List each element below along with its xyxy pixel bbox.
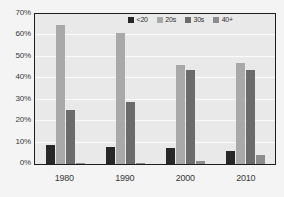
legend-swatch-icon xyxy=(157,17,163,23)
legend-swatch-icon xyxy=(185,17,191,23)
bar xyxy=(246,70,255,164)
bar xyxy=(126,102,135,164)
bar xyxy=(186,70,195,164)
bar xyxy=(226,151,235,164)
bar xyxy=(56,25,65,164)
legend-label: 30s xyxy=(193,16,204,23)
legend-swatch-icon xyxy=(213,17,219,23)
bar xyxy=(176,65,185,164)
bar xyxy=(76,163,85,164)
bar xyxy=(106,147,115,164)
bar-group xyxy=(215,14,275,164)
y-tick-label: 30% xyxy=(16,95,31,103)
bar xyxy=(46,145,55,164)
y-tick-label: 40% xyxy=(16,73,31,81)
y-tick-label: 20% xyxy=(16,116,31,124)
bar xyxy=(256,155,265,164)
legend-item: <20 xyxy=(128,16,148,23)
y-tick-label: 70% xyxy=(16,9,31,17)
legend-item: 20s xyxy=(157,16,176,23)
y-tick-label: 0% xyxy=(20,159,31,167)
bars-layer xyxy=(35,14,275,164)
bar-group xyxy=(95,14,155,164)
bar xyxy=(196,161,205,164)
x-axis: 1980199020002010 xyxy=(34,171,276,185)
x-tick-label: 2010 xyxy=(216,171,277,185)
legend-item: 40+ xyxy=(213,16,233,23)
legend: <2020s30s40+ xyxy=(128,16,233,23)
legend-item: 30s xyxy=(185,16,204,23)
plot-area xyxy=(34,13,276,165)
bar xyxy=(136,163,145,164)
legend-swatch-icon xyxy=(128,17,134,23)
y-tick-label: 60% xyxy=(16,30,31,38)
legend-label: <20 xyxy=(137,16,148,23)
x-tick-label: 1990 xyxy=(95,171,156,185)
bar-group xyxy=(155,14,215,164)
x-tick-label: 1980 xyxy=(34,171,95,185)
bar-group xyxy=(35,14,95,164)
y-tick-label: 50% xyxy=(16,52,31,60)
chart-figure: 0%10%20%30%40%50%60%70% 1980199020002010… xyxy=(0,0,284,197)
x-tick-label: 2000 xyxy=(155,171,216,185)
bar xyxy=(166,148,175,164)
legend-label: 20s xyxy=(165,16,176,23)
y-axis: 0%10%20%30%40%50%60%70% xyxy=(0,0,34,197)
legend-label: 40+ xyxy=(222,16,233,23)
bar xyxy=(236,63,245,164)
y-tick-label: 10% xyxy=(16,138,31,146)
bar xyxy=(116,33,125,164)
bar xyxy=(66,110,75,164)
